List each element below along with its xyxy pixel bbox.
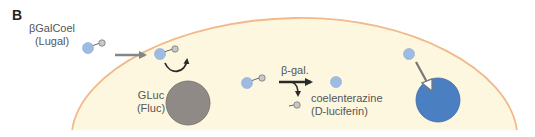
diagram-canvas: [0, 0, 535, 137]
product-name: coelenterazine: [311, 92, 383, 105]
free-coelenterazine-icon: [404, 49, 415, 60]
substrate-alt-name: (Lugal): [26, 35, 78, 48]
coelenterazine-moiety-icon: [83, 43, 94, 54]
galactose-moiety-icon: [172, 46, 178, 52]
galactose-moiety-icon: [294, 102, 300, 108]
coelenterazine-moiety-icon: [155, 49, 166, 60]
substrate-label: βGalCoel (Lugal): [26, 22, 78, 48]
cell: [0, 18, 535, 137]
product-label: coelenterazine (D-luciferin): [311, 92, 383, 118]
enzyme-label: GLuc (Fluc): [131, 89, 171, 115]
enzyme-name: GLuc: [131, 89, 171, 102]
galactose-moiety-icon: [99, 40, 105, 46]
luciferase-inactive-icon: [166, 81, 210, 125]
galactose-moiety-icon: [259, 75, 265, 81]
panel-label: B: [12, 7, 22, 23]
free-coelenterazine-icon: [331, 77, 342, 88]
enzyme-alt-name: (Fluc): [131, 102, 171, 115]
enzyme-reaction-label: β-gal.: [281, 64, 309, 77]
substrate-name: βGalCoel: [26, 22, 78, 35]
substrate-molecule-outside: [83, 40, 106, 54]
cell-bottom-mask: [0, 130, 535, 137]
product-alt-name: (D-luciferin): [311, 105, 383, 118]
coelenterazine-moiety-icon: [242, 78, 253, 89]
luciferase-active-icon: [416, 78, 460, 122]
